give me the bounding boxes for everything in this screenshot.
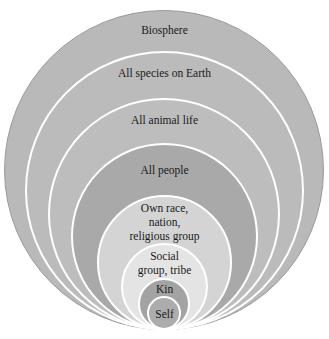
label-self: Self	[0, 308, 329, 321]
label-own-race-line3: religious group	[0, 230, 329, 243]
label-own-race-line2: nation,	[0, 216, 329, 229]
label-all-people: All people	[0, 164, 329, 177]
label-kin: Kin	[0, 283, 329, 296]
label-social-group-line1: Social	[0, 250, 329, 263]
label-own-race-line1: Own race,	[0, 202, 329, 215]
label-all-animal-life: All animal life	[0, 114, 329, 127]
label-biosphere: Biosphere	[0, 24, 329, 37]
label-all-species: All species on Earth	[0, 67, 329, 80]
nested-circles-diagram: Biosphere All species on Earth All anima…	[0, 0, 329, 339]
label-social-group-line2: group, tribe	[0, 264, 329, 277]
